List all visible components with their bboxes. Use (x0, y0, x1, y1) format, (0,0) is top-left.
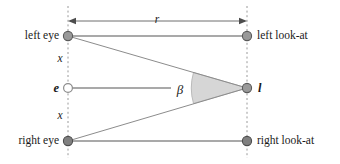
right-eye-node[interactable] (63, 136, 72, 145)
left-look-at-label: left look-at (257, 30, 308, 42)
eye-point-label: e (53, 82, 59, 95)
right-eye-label: right eye (18, 135, 59, 147)
beta-angle-label: β (177, 83, 183, 96)
look-at-node[interactable] (242, 83, 251, 92)
eye-center-node[interactable] (64, 84, 73, 93)
look-at-point-label: l (258, 82, 261, 95)
offset-x-upper-label: x (57, 53, 62, 65)
right-look-at-label: right look-at (257, 135, 314, 147)
r-arrow-head-right (239, 18, 247, 24)
distance-r-label: r (155, 14, 159, 26)
left-look-at-node[interactable] (242, 31, 251, 40)
left-eye-to-lookat-ray (68, 36, 247, 88)
left-eye-label: left eye (25, 30, 59, 42)
r-arrow-head-left (68, 18, 76, 24)
beta-angle-wedge (191, 73, 247, 104)
right-look-at-node[interactable] (242, 136, 251, 145)
right-eye-to-lookat-ray (68, 88, 247, 141)
offset-x-lower-label: x (57, 110, 62, 122)
diagram-canvas: left eye left look-at right eye right lo… (0, 0, 340, 164)
left-eye-node[interactable] (63, 31, 72, 40)
